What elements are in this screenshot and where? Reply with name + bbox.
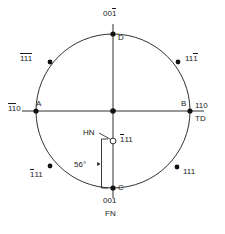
overbar-triple: 111 xyxy=(20,54,32,63)
label-point-d: D xyxy=(118,33,124,42)
angle-bracket xyxy=(102,139,109,188)
label-lower-right-index: 111 xyxy=(183,167,195,176)
overbar-digit: 1 xyxy=(30,170,34,179)
overbar-digit: 1 xyxy=(120,135,124,144)
pole-marker-lower-left xyxy=(48,164,53,169)
label-point-c: C xyxy=(118,183,124,192)
label-right-mid-direction: TD xyxy=(195,114,206,123)
label-point-a: A xyxy=(36,99,41,108)
label-point-b: B xyxy=(181,99,186,108)
label-hn-index: 111 xyxy=(120,135,133,144)
overbar-digit: 1 xyxy=(112,9,116,18)
hn-leader-line xyxy=(99,133,110,139)
label-angle: 56° xyxy=(74,160,86,169)
pole-figure-canvas: 001 D 111 111 110 A B 110 TD HN 111 56° … xyxy=(0,0,225,234)
label-lower-left-index: 111 xyxy=(30,170,43,179)
pole-marker-upper-right xyxy=(176,60,181,65)
pole-marker-lower-right xyxy=(175,165,180,170)
overbar-pair: 11 xyxy=(8,104,16,113)
label-left-mid-index: 110 xyxy=(8,104,21,113)
pole-marker-c xyxy=(110,185,115,190)
label-bottom-direction: FN xyxy=(105,209,116,218)
label-top-index: 001 xyxy=(103,9,116,18)
label-upper-right-index: 111 xyxy=(185,54,198,63)
pole-marker-center xyxy=(110,108,116,114)
pole-marker-hn-open xyxy=(110,138,116,144)
pole-marker-d xyxy=(110,31,115,36)
overbar-digit: 1 xyxy=(193,54,197,63)
angle-arrow-icon xyxy=(97,162,100,166)
label-hn: HN xyxy=(83,128,95,137)
pole-marker-b xyxy=(187,108,192,113)
pole-marker-a xyxy=(33,108,38,113)
label-bottom-index: 001 xyxy=(103,196,116,205)
pole-marker-upper-left xyxy=(48,60,53,65)
label-right-mid-index: 110 xyxy=(195,101,208,110)
label-upper-left-index: 111 xyxy=(20,54,32,63)
